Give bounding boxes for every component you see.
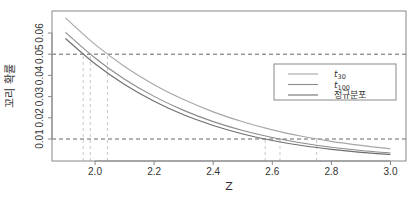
x-tick-label: 2.0: [88, 166, 102, 177]
x-axis-title: Z: [225, 180, 233, 193]
x-axis: 2.02.22.42.62.83.0: [88, 161, 398, 177]
y-tick-label: 0.02: [34, 108, 45, 128]
legend: t30t100정규분포: [274, 64, 396, 100]
x-tick-label: 2.4: [206, 166, 220, 177]
x-tick-label: 2.8: [324, 166, 338, 177]
y-tick-label: 0.03: [34, 86, 45, 106]
x-tick-label: 2.6: [265, 166, 279, 177]
y-tick-label: 0.04: [34, 65, 45, 85]
y-tick-label: 0.06: [34, 23, 45, 43]
y-tick-label: 0.01: [34, 129, 45, 149]
y-axis: 0.010.020.030.040.050.06: [34, 23, 52, 149]
x-tick-label: 2.2: [147, 166, 161, 177]
y-axis-title: 꼬리 확률: [4, 64, 17, 108]
x-tick-label: 3.0: [384, 166, 398, 177]
y-tick-label: 0.05: [34, 44, 45, 64]
tail-probability-chart: 2.02.22.42.62.83.0 0.010.020.030.040.050…: [0, 0, 418, 200]
legend-label-정규분포: 정규분포: [334, 90, 366, 100]
